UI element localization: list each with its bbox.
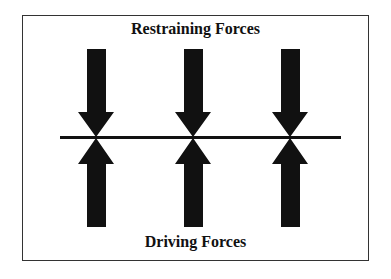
driving-arrow-3 [272,138,308,227]
driving-arrow-1 [78,138,114,227]
driving-arrow-2 [175,138,211,227]
restraining-arrow-3 [272,49,308,137]
equilibrium-line [60,136,341,139]
driving-forces-label: Driving Forces [0,233,391,251]
restraining-arrow-1 [78,49,114,137]
restraining-arrow-2 [175,49,211,137]
